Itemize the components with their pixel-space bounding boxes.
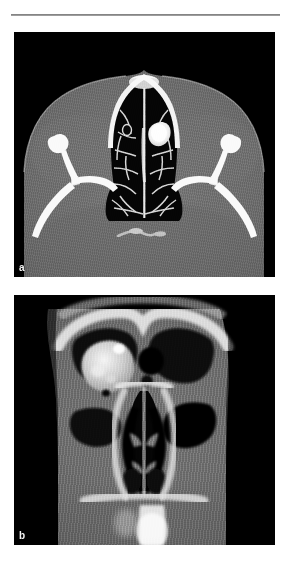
figure-root: a [0,0,287,572]
panel-b-label: b [19,531,25,541]
panel-a-image: a [14,32,275,277]
panel-a-axial-ct: a [14,32,275,277]
panel-a-label: a [19,263,25,273]
coronal-ct-graphic [14,295,275,545]
panel-b-coronal-ct: b [14,295,275,545]
axial-ct-graphic [14,32,275,277]
panel-b-image: b [14,295,275,545]
header-divider [11,14,280,16]
